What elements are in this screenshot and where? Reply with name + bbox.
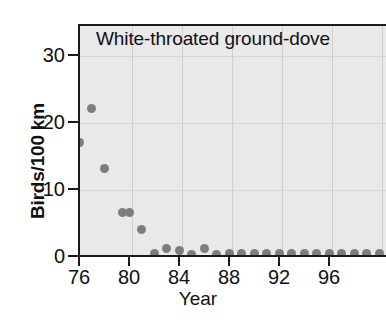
y-tick-label: 30	[43, 45, 65, 65]
x-axis-title: Year	[78, 288, 318, 310]
y-tick-mark	[68, 54, 79, 56]
x-axis-line	[78, 255, 386, 257]
data-point	[125, 208, 134, 217]
gridline-vertical	[382, 25, 383, 256]
gridline-vertical	[232, 25, 233, 256]
chart-title: White-throated ground-dove	[96, 28, 330, 50]
data-point	[87, 104, 96, 113]
gridline-vertical	[182, 25, 183, 256]
gridline-vertical	[132, 25, 133, 256]
data-point	[162, 244, 171, 253]
data-point	[100, 164, 109, 173]
plot-area	[79, 25, 386, 256]
y-tick-label: 10	[43, 179, 65, 199]
data-point	[175, 246, 184, 255]
chart-figure: Birds/100 km White-throated ground-dove …	[0, 0, 386, 320]
y-axis-title: Birds/100 km	[27, 61, 49, 261]
plot-frame-top	[79, 24, 386, 26]
gridline-vertical	[332, 25, 333, 256]
gridline-horizontal	[79, 56, 386, 57]
gridline-horizontal	[79, 123, 386, 124]
gridline-vertical	[282, 25, 283, 256]
data-point	[200, 244, 209, 253]
y-tick-mark	[68, 121, 79, 123]
y-tick-label: 0	[54, 246, 65, 266]
x-tick-mark	[228, 255, 230, 266]
x-tick-mark	[328, 255, 330, 266]
x-tick-mark	[78, 255, 80, 266]
y-tick-label: 20	[43, 112, 65, 132]
x-tick-mark	[178, 255, 180, 266]
x-tick-mark	[128, 255, 130, 266]
y-axis-line	[78, 24, 80, 257]
data-point	[137, 225, 146, 234]
x-tick-label: 96	[299, 266, 359, 288]
x-tick-mark	[278, 255, 280, 266]
gridline-horizontal	[79, 190, 386, 191]
y-tick-mark	[68, 188, 79, 190]
